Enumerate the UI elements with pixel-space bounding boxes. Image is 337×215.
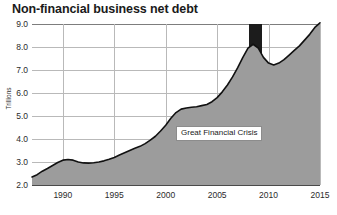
chart-container: Non-financial business net debt Trillion… <box>0 0 337 215</box>
data-series-area <box>32 24 320 185</box>
y-axis-tick-label: 5.0 <box>16 111 28 121</box>
y-axis-tick-label: 3.0 <box>16 157 28 167</box>
y-axis-label: Trillions <box>5 74 12 124</box>
x-axis-tick-label: 2005 <box>208 190 227 200</box>
x-gridline <box>320 24 321 185</box>
x-axis-tick-label: 2000 <box>156 190 175 200</box>
x-axis-tick-label: 2010 <box>259 190 278 200</box>
y-gridline <box>32 185 320 186</box>
chart-title: Non-financial business net debt <box>12 2 198 16</box>
plot-area: 2.03.04.05.06.07.08.09.01990199520002005… <box>32 24 320 185</box>
y-axis-tick-label: 7.0 <box>16 65 28 75</box>
y-axis-tick-label: 9.0 <box>16 19 28 29</box>
x-axis-tick-label: 2015 <box>311 190 330 200</box>
y-axis-tick-label: 4.0 <box>16 134 28 144</box>
annotation-label-great-financial-crisis: Great Financial Crisis <box>176 126 262 141</box>
x-axis-tick-label: 1990 <box>53 190 72 200</box>
y-axis-tick-label: 6.0 <box>16 88 28 98</box>
y-axis-tick-label: 8.0 <box>16 42 28 52</box>
x-axis-tick-label: 1995 <box>105 190 124 200</box>
y-axis-tick-label: 2.0 <box>16 180 28 190</box>
